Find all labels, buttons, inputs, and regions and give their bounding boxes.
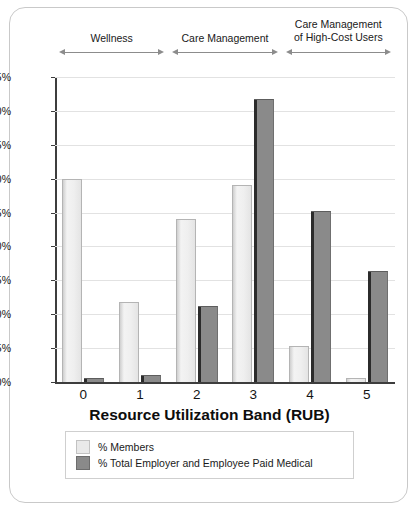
bar-3-series-1 bbox=[254, 99, 274, 382]
x-axis-line bbox=[55, 382, 395, 384]
bar-group: 2 bbox=[168, 77, 225, 382]
bracket-label: Wellness bbox=[59, 32, 164, 45]
x-axis-tick-label: 1 bbox=[112, 387, 169, 402]
legend-label: % Total Employer and Employee Paid Medic… bbox=[98, 457, 313, 469]
chart-card: WellnessCare ManagementCare Management o… bbox=[9, 7, 408, 503]
bar-4-series-0 bbox=[289, 346, 309, 382]
y-axis-tick-label: 5% bbox=[0, 342, 11, 354]
plot-area: 45%40%35%30%25%20%15%10%5%0%012345 bbox=[55, 77, 395, 382]
bracket-group: Wellness bbox=[59, 32, 164, 45]
legend-item[interactable]: % Members bbox=[76, 440, 345, 454]
y-axis-tick-label: 35% bbox=[0, 139, 11, 151]
bar-5-series-0 bbox=[346, 378, 366, 382]
bar-1-series-1 bbox=[141, 375, 161, 382]
bracket-arrow bbox=[172, 48, 277, 57]
y-axis-tick-label: 30% bbox=[0, 173, 11, 185]
bracket-arrowhead-left-icon bbox=[286, 49, 292, 55]
bracket-annotations: WellnessCare ManagementCare Management o… bbox=[10, 8, 409, 70]
bar-2-series-1 bbox=[198, 306, 218, 382]
bar-group: 5 bbox=[338, 77, 395, 382]
y-axis-tick-label: 45% bbox=[0, 71, 11, 83]
bracket-arrowhead-right-icon bbox=[158, 49, 164, 55]
y-axis-tick-label: 40% bbox=[0, 105, 11, 117]
x-axis-tick-label: 5 bbox=[338, 387, 395, 402]
bracket-label: Care Management bbox=[172, 32, 277, 45]
x-axis-tick-label: 4 bbox=[282, 387, 339, 402]
legend-item[interactable]: % Total Employer and Employee Paid Medic… bbox=[76, 456, 345, 470]
bar-2-series-0 bbox=[176, 219, 196, 382]
y-axis-tick-label: 20% bbox=[0, 240, 11, 252]
bracket-arrow-line bbox=[177, 52, 272, 53]
bar-5-series-1 bbox=[368, 271, 388, 382]
bar-group: 3 bbox=[225, 77, 282, 382]
bar-0-series-0 bbox=[62, 179, 82, 382]
bracket-arrow bbox=[59, 48, 164, 57]
bar-group: 1 bbox=[112, 77, 169, 382]
bar-1-series-0 bbox=[119, 302, 139, 382]
bar-0-series-1 bbox=[84, 378, 104, 382]
bracket-group: Care Management of High-Cost Users bbox=[286, 18, 391, 43]
bar-group: 0 bbox=[55, 77, 112, 382]
legend-swatch-icon bbox=[76, 456, 90, 470]
x-axis-tick-label: 3 bbox=[225, 387, 282, 402]
x-axis-tick-label: 2 bbox=[168, 387, 225, 402]
y-axis-tick-label: 15% bbox=[0, 274, 11, 286]
bar-3-series-0 bbox=[232, 185, 252, 382]
x-axis-title: Resource Utilization Band (RUB) bbox=[10, 406, 409, 424]
bracket-arrow-line bbox=[64, 52, 159, 53]
bracket-arrowhead-left-icon bbox=[172, 49, 178, 55]
bracket-arrow-line bbox=[291, 52, 386, 53]
y-axis-tick-label: 10% bbox=[0, 308, 11, 320]
y-axis-tick-label: 0% bbox=[0, 376, 11, 388]
bar-4-series-1 bbox=[311, 211, 331, 382]
y-axis-tick-mark bbox=[51, 382, 55, 383]
bar-group: 4 bbox=[282, 77, 339, 382]
bracket-arrowhead-right-icon bbox=[272, 49, 278, 55]
bracket-label: Care Management of High-Cost Users bbox=[286, 18, 391, 43]
bracket-arrowhead-left-icon bbox=[59, 49, 65, 55]
legend-label: % Members bbox=[98, 441, 154, 453]
chart-legend: % Members% Total Employer and Employee P… bbox=[65, 431, 354, 479]
bracket-arrow bbox=[286, 48, 391, 57]
bracket-arrowhead-right-icon bbox=[385, 49, 391, 55]
y-axis-tick-label: 25% bbox=[0, 207, 11, 219]
bracket-group: Care Management bbox=[172, 32, 277, 45]
legend-swatch-icon bbox=[76, 440, 90, 454]
x-axis-tick-label: 0 bbox=[55, 387, 112, 402]
